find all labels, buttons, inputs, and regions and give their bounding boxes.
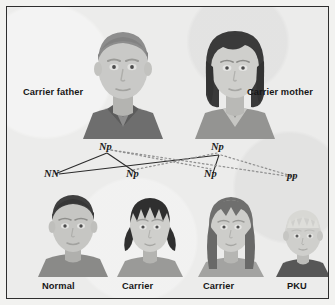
genotype-mother: Np xyxy=(211,141,224,152)
figure-plate: Carrier father Carrier mother Np Np xyxy=(6,6,329,299)
portrait-child-1 xyxy=(34,187,112,277)
portrait-child-2 xyxy=(112,189,188,277)
pku-inheritance-figure: Carrier father Carrier mother Np Np xyxy=(0,0,335,305)
label-child-2: Carrier xyxy=(122,281,153,291)
label-child-3: Carrier xyxy=(203,281,234,291)
genotype-child-3: Np xyxy=(204,168,217,179)
label-carrier-father: Carrier father xyxy=(23,87,83,97)
portrait-child-4 xyxy=(272,203,329,277)
label-child-4: PKU xyxy=(287,281,307,291)
label-child-1: Normal xyxy=(42,281,75,291)
genotype-child-4: pp xyxy=(287,170,298,181)
portrait-mother xyxy=(189,21,281,139)
genotype-father: Np xyxy=(99,141,112,152)
label-carrier-mother: Carrier mother xyxy=(247,87,313,97)
genotype-child-2: Np xyxy=(126,168,139,179)
genotype-child-1: NN xyxy=(44,168,59,179)
portrait-father xyxy=(77,21,169,139)
portrait-child-3 xyxy=(193,189,269,277)
